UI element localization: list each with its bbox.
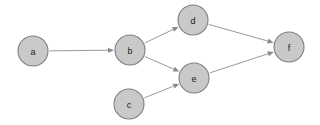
node-circle-a: [18, 36, 48, 66]
graph-edge-e-f[interactable]: [210, 51, 274, 73]
graph-node-b[interactable]: b: [115, 35, 145, 65]
node-circle-e: [179, 63, 209, 93]
edge-layer: [50, 24, 274, 97]
node-circle-d: [178, 5, 208, 35]
graph-edge-a-b[interactable]: [50, 48, 115, 53]
node-circle-f: [274, 32, 304, 62]
graph-node-c[interactable]: c: [114, 89, 144, 119]
graph-canvas: abcdef: [0, 0, 320, 125]
edge-line-b-e: [145, 57, 174, 70]
graph-node-f[interactable]: f: [274, 32, 304, 62]
graph-edge-c-e[interactable]: [144, 84, 179, 98]
node-circle-b: [115, 35, 145, 65]
graph-node-a[interactable]: a: [18, 36, 48, 66]
node-circle-c: [114, 89, 144, 119]
graph-edge-d-f[interactable]: [209, 24, 274, 43]
edge-line-d-f: [209, 24, 268, 41]
arrowhead-icon-d-f: [267, 39, 273, 44]
graph-node-d[interactable]: d: [178, 5, 208, 35]
edge-line-e-f: [210, 54, 268, 73]
graph-svg: abcdef: [0, 0, 320, 125]
edge-line-c-e: [144, 86, 173, 98]
arrowhead-icon-c-e: [173, 84, 180, 89]
graph-edge-b-d[interactable]: [145, 27, 179, 43]
edge-line-b-d: [145, 29, 173, 42]
edge-line-a-b: [50, 50, 109, 51]
graph-node-e[interactable]: e: [179, 63, 209, 93]
arrowhead-icon-e-f: [267, 51, 274, 56]
graph-edge-b-e[interactable]: [145, 57, 179, 72]
node-layer: abcdef: [18, 5, 304, 119]
arrowhead-icon-a-b: [108, 48, 114, 53]
